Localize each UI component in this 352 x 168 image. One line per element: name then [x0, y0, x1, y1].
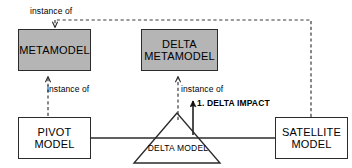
- edge-label-instance-of-left: instance of: [47, 84, 89, 94]
- edge-label-delta-impact: 1. DELTA IMPACT: [197, 98, 270, 108]
- node-delta-metamodel-label: DELTA METAMODEL: [144, 38, 215, 63]
- node-pivot-model-label: PIVOT MODEL: [34, 126, 74, 151]
- node-satellite-model-label: SATELLITE MODEL: [282, 126, 341, 151]
- edge-label-instance-of-top: instance of: [30, 6, 72, 16]
- node-metamodel[interactable]: METAMODEL: [18, 29, 91, 71]
- edge-label-instance-of-center: instance of: [181, 84, 223, 94]
- diagram-canvas: metamodel (dashed, top routing) --> meta…: [0, 0, 352, 168]
- node-pivot-model[interactable]: PIVOT MODEL: [18, 117, 91, 159]
- node-metamodel-label: METAMODEL: [19, 44, 90, 56]
- node-satellite-model[interactable]: SATELLITE MODEL: [275, 117, 348, 159]
- node-delta-metamodel[interactable]: DELTA METAMODEL: [141, 29, 218, 71]
- node-delta-model-label: DELTA MODEL: [141, 143, 215, 153]
